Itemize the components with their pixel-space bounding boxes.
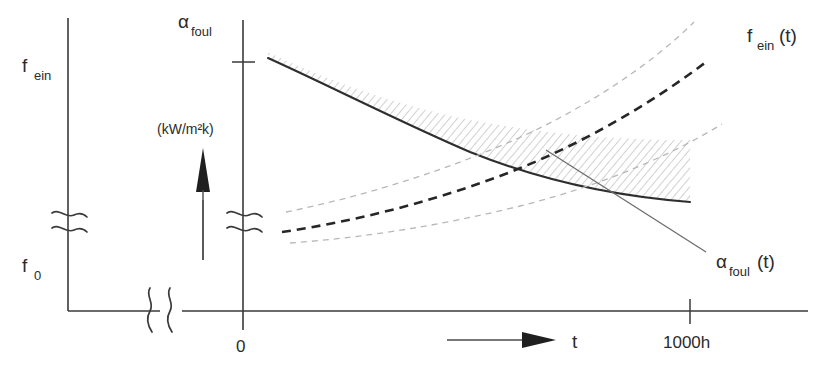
arrow-head-icon (196, 148, 210, 192)
f-ein-curve-symbol: f (747, 25, 753, 46)
left-axis-break-symbol (52, 212, 87, 232)
diagram-canvas: f ein f 0 α foul 0 (kW/m²k) (0, 0, 814, 375)
label-alpha-foul-curve: α foul (t) (716, 251, 775, 279)
middle-alpha-axis (227, 20, 262, 330)
technical-diagram: f ein f 0 α foul 0 (kW/m²k) (0, 0, 814, 375)
units-up-arrow (196, 148, 210, 260)
f-zero-axis-subscript: 0 (34, 268, 41, 283)
uncertainty-band (268, 52, 690, 202)
t-axis-label: t (572, 331, 578, 352)
label-f-ein-axis: f ein (22, 55, 51, 83)
label-f-ein-curve: f ein (t) (747, 25, 797, 53)
left-f-axis (52, 18, 87, 311)
label-alpha-foul-axis: α foul (178, 11, 212, 39)
alpha-foul-curve-subscript: foul (729, 264, 750, 279)
alpha-foul-axis-symbol: α (178, 11, 189, 32)
f-ein-axis-subscript: ein (34, 68, 51, 83)
x-axis-origin-label: 0 (236, 337, 245, 356)
time-x-axis (68, 288, 808, 332)
alpha-foul-axis-subscript: foul (191, 24, 212, 39)
t-arrow-head-icon (522, 332, 556, 348)
x-axis-break-symbol (148, 288, 172, 332)
alpha-foul-curve-symbol: α (716, 251, 727, 272)
x-axis-end-label: 1000h (663, 333, 710, 352)
units-label: (kW/m²k) (157, 121, 214, 137)
f-ein-axis-symbol: f (22, 55, 28, 76)
f-ein-curve-suffix: (t) (779, 25, 797, 46)
f-ein-curve-subscript: ein (757, 38, 774, 53)
f-zero-axis-symbol: f (22, 255, 28, 276)
alpha-foul-curve-suffix: (t) (757, 251, 775, 272)
middle-axis-break-symbol (227, 212, 262, 232)
t-axis-arrow (447, 332, 556, 348)
label-f-zero-axis: f 0 (22, 255, 41, 283)
